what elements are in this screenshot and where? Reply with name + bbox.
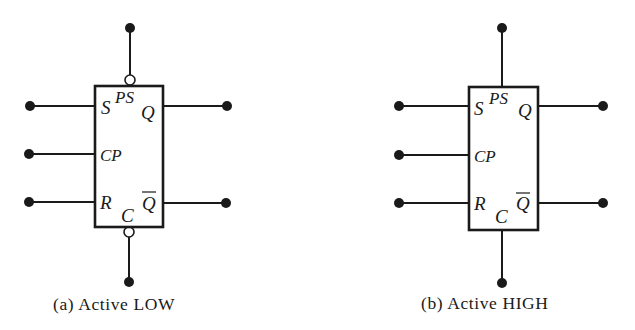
clear-terminal (497, 278, 507, 288)
s-terminal (394, 101, 404, 111)
caption-b: (b) Active HIGH (421, 293, 549, 313)
r-terminal (394, 198, 404, 208)
cp-terminal (24, 149, 34, 159)
pin-label-cp: CP (100, 146, 122, 165)
pin-label-c: C (495, 206, 508, 227)
caption-a: (a) Active LOW (53, 294, 175, 314)
cp-terminal (394, 150, 404, 160)
preset-terminal (497, 23, 507, 33)
pin-label-qbar: Q (516, 193, 530, 214)
pin-label-s: S (474, 98, 484, 119)
preset-terminal (125, 23, 135, 33)
pin-label-ps: PS (114, 88, 134, 107)
clear-terminal (124, 277, 134, 287)
pin-label-cp: CP (474, 147, 496, 166)
q-terminal (222, 101, 232, 111)
clear-inversion-bubble (124, 227, 134, 237)
pin-label-qbar: Q (142, 193, 156, 214)
pin-label-q: Q (141, 102, 155, 123)
preset-inversion-bubble (125, 75, 135, 85)
pin-label-ps: PS (488, 89, 508, 108)
flip-flop-figure: S PS Q CP R C Q (a) Active LOW (0, 0, 635, 330)
pin-label-r: R (473, 193, 486, 214)
pin-label-q: Q (518, 100, 532, 121)
diagram-active-high: S PS Q CP R C Q (b) Active HIGH (394, 23, 608, 313)
s-terminal (25, 101, 35, 111)
pin-label-s: S (101, 97, 111, 118)
q-terminal (598, 101, 608, 111)
pin-label-r: R (99, 192, 112, 213)
pin-label-c: C (121, 205, 134, 226)
diagram-active-low: S PS Q CP R C Q (a) Active LOW (24, 23, 232, 314)
r-terminal (24, 197, 34, 207)
qbar-terminal (598, 198, 608, 208)
qbar-terminal (221, 198, 231, 208)
